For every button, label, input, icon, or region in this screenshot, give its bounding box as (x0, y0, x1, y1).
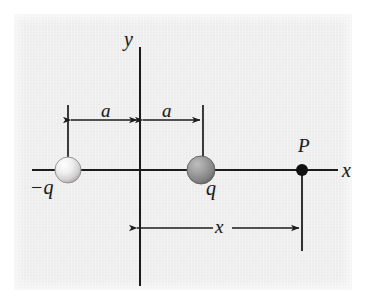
positive-charge-label: q (206, 178, 216, 198)
figure-root: y x −q q P a a x (0, 0, 370, 306)
x-axis-label: x (342, 160, 351, 180)
negative-charge-sphere (55, 157, 81, 183)
dimension-label-a-left: a (101, 101, 111, 120)
negative-charge-label: −q (30, 177, 54, 197)
dimension-label-a-right: a (162, 101, 172, 120)
y-axis-label: y (124, 29, 133, 49)
point-p-label: P (298, 136, 310, 155)
dimension-label-x: x (215, 217, 223, 236)
diagram-canvas (0, 0, 370, 306)
point-p-dot (296, 164, 308, 176)
